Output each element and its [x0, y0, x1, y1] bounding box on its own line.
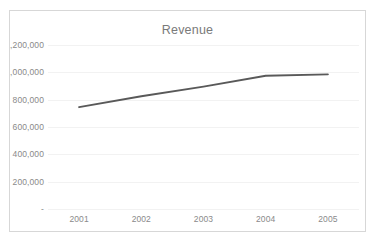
y-axis-tick-label: 400,000 — [9, 149, 44, 159]
chart-title: Revenue — [10, 23, 365, 37]
y-axis-tick-label: 1,000,000 — [9, 67, 44, 77]
x-axis-tick-label: 2005 — [318, 214, 337, 224]
y-axis-tick-label: 800,000 — [9, 95, 44, 105]
x-axis-tick-label: 2001 — [69, 214, 88, 224]
chart-container[interactable]: Revenue -200,000400,000600,000800,0001,0… — [9, 10, 366, 232]
y-axis-tick-label: 1,200,000 — [9, 40, 44, 50]
y-axis-tick-label: 600,000 — [9, 122, 44, 132]
x-axis: 20012002200320042005 — [10, 214, 365, 228]
y-axis-tick-label: 200,000 — [9, 177, 44, 187]
x-axis-tick-label: 2003 — [194, 214, 213, 224]
x-axis-tick-label: 2004 — [256, 214, 275, 224]
gridline — [48, 209, 359, 210]
x-axis-tick-label: 2002 — [132, 214, 151, 224]
revenue-line-series — [48, 45, 359, 209]
y-axis: -200,000400,000600,000800,0001,000,0001,… — [10, 45, 44, 209]
y-axis-tick-label: - — [9, 204, 44, 214]
plot-area[interactable] — [48, 45, 359, 209]
